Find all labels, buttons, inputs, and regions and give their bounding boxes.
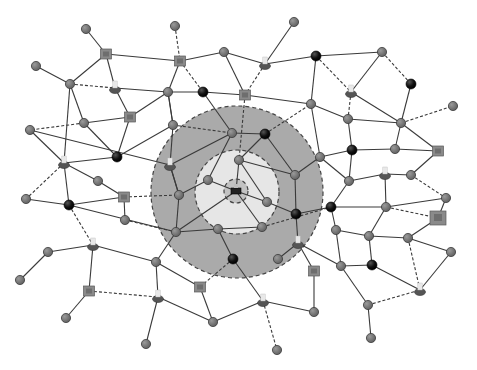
wireless-link	[401, 106, 453, 123]
grey-node-icon	[31, 61, 40, 70]
black-node-icon	[198, 87, 208, 97]
wired-link	[369, 207, 386, 236]
black-node-icon	[326, 202, 336, 212]
wired-link	[48, 245, 93, 252]
wired-link	[372, 265, 420, 290]
square-large-node-icon	[430, 211, 446, 225]
grey-node-icon	[262, 197, 271, 206]
wired-link	[265, 56, 316, 64]
wired-link	[351, 92, 401, 123]
square-node-icon	[119, 192, 130, 202]
wired-link	[84, 117, 130, 123]
grey-node-icon	[364, 231, 373, 240]
grey-node-icon	[170, 21, 179, 30]
wireless-link	[316, 56, 351, 92]
wired-link	[386, 198, 446, 207]
grey-node-icon	[390, 144, 399, 153]
grey-node-icon	[343, 114, 352, 123]
black-node-icon	[291, 209, 301, 219]
grey-node-icon	[315, 152, 324, 161]
grey-node-icon	[120, 215, 129, 224]
wired-link	[316, 52, 382, 56]
wired-link	[408, 238, 451, 252]
wired-link	[30, 130, 64, 163]
network-svg	[0, 0, 477, 370]
grey-node-icon	[344, 176, 353, 185]
wired-link	[20, 252, 48, 280]
wired-link	[245, 95, 311, 104]
wireless-link	[263, 301, 277, 350]
wireless-link	[368, 290, 420, 305]
wired-link	[369, 236, 408, 238]
wired-link	[30, 130, 170, 165]
user-node-icon	[59, 156, 70, 169]
grey-node-icon	[290, 170, 299, 179]
grey-node-icon	[396, 118, 405, 127]
grey-node-icon	[289, 17, 298, 26]
wireless-link	[408, 238, 420, 290]
grey-node-icon	[306, 99, 315, 108]
square-node-icon	[84, 286, 95, 296]
wired-link	[115, 88, 168, 92]
black-node-icon	[347, 145, 357, 155]
black-node-icon	[64, 200, 74, 210]
square-node-icon	[309, 266, 320, 276]
grey-node-icon	[448, 101, 457, 110]
grey-node-icon	[272, 345, 281, 354]
network-nodes	[15, 17, 457, 354]
grey-node-icon	[163, 87, 172, 96]
wired-link	[420, 252, 451, 290]
wired-link	[36, 66, 70, 84]
grey-node-icon	[174, 190, 183, 199]
wired-link	[168, 92, 173, 125]
grey-node-icon	[227, 128, 236, 137]
square-node-icon	[175, 56, 186, 66]
wired-link	[106, 54, 180, 61]
wireless-link	[382, 52, 411, 84]
grey-node-icon	[213, 224, 222, 233]
wired-link	[336, 230, 341, 266]
grey-node-icon	[441, 193, 450, 202]
grey-node-icon	[273, 254, 282, 263]
wired-link	[203, 92, 245, 95]
grey-node-icon	[446, 247, 455, 256]
grey-node-icon	[93, 176, 102, 185]
wired-link	[348, 119, 401, 123]
black-node-icon	[367, 260, 377, 270]
grey-node-icon	[381, 202, 390, 211]
wired-link	[146, 297, 158, 344]
grey-node-icon	[203, 175, 212, 184]
wired-link	[311, 104, 320, 157]
wired-link	[341, 266, 368, 305]
grey-node-icon	[168, 120, 177, 129]
user-node-icon	[153, 290, 164, 303]
square-node-icon	[101, 49, 112, 59]
grey-node-icon	[65, 79, 74, 88]
grey-node-icon	[61, 313, 70, 322]
wired-link	[395, 149, 438, 151]
grey-node-icon	[21, 194, 30, 203]
grey-node-icon	[15, 275, 24, 284]
grey-node-icon	[43, 247, 52, 256]
wired-link	[351, 52, 382, 92]
grey-node-icon	[309, 307, 318, 316]
wired-link	[263, 301, 314, 312]
black-node-icon	[406, 79, 416, 89]
square-node-icon	[125, 112, 136, 122]
network-diagram	[0, 0, 477, 370]
wired-link	[224, 52, 245, 95]
square-node-icon	[195, 282, 206, 292]
wired-link	[311, 56, 316, 104]
wired-link	[352, 149, 395, 150]
grey-node-icon	[25, 125, 34, 134]
wired-link	[336, 230, 369, 236]
grey-node-icon	[363, 300, 372, 309]
grey-node-icon	[219, 47, 228, 56]
user-node-icon	[88, 238, 99, 251]
wireless-link	[30, 123, 84, 130]
black-node-icon	[228, 254, 238, 264]
wired-link	[311, 104, 348, 119]
grey-node-icon	[331, 225, 340, 234]
wired-link	[69, 197, 124, 205]
grey-node-icon	[406, 170, 415, 179]
